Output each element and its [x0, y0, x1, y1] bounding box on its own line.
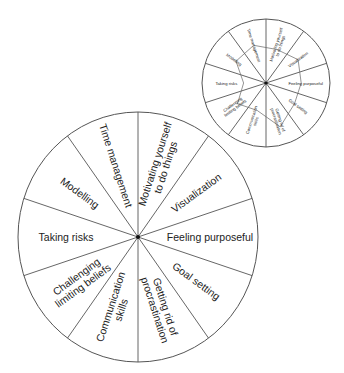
segment-label-line: Feeling purposeful	[167, 231, 253, 243]
segment-label: Feeling purposeful	[167, 231, 253, 243]
segment-label-line: Feeling purposeful	[288, 81, 323, 86]
center-dot	[264, 81, 267, 84]
segment-label-line: Taking risks	[39, 231, 94, 243]
segment-label: Feeling purposeful	[288, 81, 323, 86]
segment-label-line: Taking risks	[215, 81, 237, 86]
segment-label: Taking risks	[39, 231, 94, 243]
main-wheel: Motivating yourselfto do thingsVisualiza…	[18, 112, 258, 362]
small-wheel-with-scores: Motivating yourselfto do thingsVisualiza…	[202, 19, 330, 147]
wheel-of-life-diagram: Motivating yourselfto do thingsVisualiza…	[0, 0, 344, 373]
segment-label: Taking risks	[215, 81, 237, 86]
center-dot	[136, 235, 140, 239]
